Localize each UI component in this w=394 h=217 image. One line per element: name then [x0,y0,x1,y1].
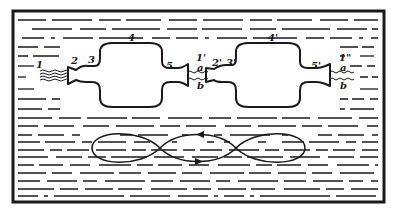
circulation-loop [92,134,305,163]
loop-arrows [195,131,204,165]
label-4-prime: 4' [268,32,278,43]
label-2-prime: 2' [211,57,222,68]
label-a-1: a [197,62,203,73]
label-3: 3 [88,54,95,65]
label-5-prime: 5' [311,60,321,71]
label-2: 2 [70,55,78,66]
label-5: 5 [166,60,173,71]
arrow-left-icon [196,131,204,138]
label-3-prime: 3' [226,57,236,68]
label-b-2: b [340,80,347,91]
label-a-2: a [340,62,346,73]
diagram-figure: 1 2 3 4 5 1' a b 2' 3' 4' 5' 1" a b [0,0,394,217]
label-1: 1 [36,59,43,70]
label-4: 4 [128,32,135,43]
label-b-1: b [197,80,204,91]
arrow-right-icon [195,158,203,165]
